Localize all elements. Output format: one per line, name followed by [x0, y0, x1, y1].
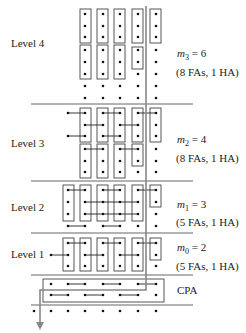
level-2-counts: (5 FAs, 1 HA) [176, 216, 239, 228]
level-1-counts: (5 FAs, 1 HA) [176, 260, 239, 272]
level-1-label: Level 1 [11, 248, 44, 260]
level-3-counts: (8 FAs, 1 HA) [176, 152, 239, 164]
level-3-label: Level 3 [11, 137, 44, 149]
level-3-m-value: m2 = 4 [177, 133, 206, 150]
output-bits [33, 310, 158, 313]
level-2-label: Level 2 [11, 201, 44, 213]
level-1-m-value: m0 = 2 [177, 241, 206, 258]
level-4-m-value: m3 = 6 [177, 47, 206, 64]
level-3-group [67, 108, 161, 178]
level-4-counts: (8 FAs, 1 HA) [176, 66, 239, 78]
level-1-group [50, 238, 161, 271]
level-4-label: Level 4 [11, 37, 44, 49]
level-4-group [80, 9, 161, 99]
level-separators [31, 104, 193, 305]
level-2-m-value: m1 = 3 [177, 198, 206, 215]
dadda-reduction-diagram [0, 0, 246, 333]
cpa-label: CPA [177, 284, 197, 296]
